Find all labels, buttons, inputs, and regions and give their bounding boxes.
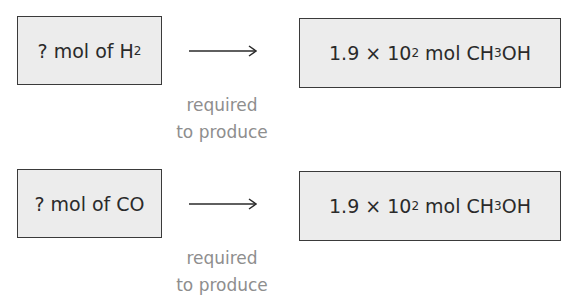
label-line-1: required [167,92,277,119]
coefficient: 1.9 × 10 [329,195,411,217]
unknown-moles-h2-box: ? mol of H2 [17,16,162,85]
unit: mol CH [419,195,494,217]
label-line-1: required [167,245,277,272]
co-prefix: ? mol of CO [34,193,144,215]
label-line-2: to produce [167,272,277,299]
required-to-produce-label: required to produce [167,92,277,146]
formula-tail: OH [502,195,531,217]
formula-tail: OH [502,42,531,64]
arrow-right-icon [189,45,257,57]
methanol-moles-box: 1.9 × 102 mol CH3OH [299,18,561,88]
unit: mol CH [419,42,494,64]
unknown-moles-co-box: ? mol of CO [17,169,162,238]
methanol-moles-box: 1.9 × 102 mol CH3OH [299,171,561,241]
required-to-produce-label: required to produce [167,245,277,299]
h2-prefix: ? mol of H [38,40,134,62]
label-line-2: to produce [167,119,277,146]
arrow-right-icon [189,198,257,210]
coefficient: 1.9 × 10 [329,42,411,64]
